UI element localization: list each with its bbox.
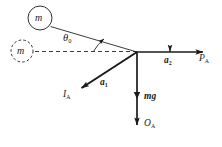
- vector-weight-mid-arrowhead: [134, 92, 140, 99]
- vector-tangential-acceleration: [82, 52, 138, 88]
- label-vertical-reaction-force: OA: [144, 119, 155, 129]
- force-I-subscript: A: [66, 94, 70, 100]
- label-horizontal-reaction-force: PA: [199, 54, 209, 64]
- label-tangential-acceleration: a1: [100, 78, 108, 88]
- label-tension-force: IA: [63, 90, 70, 100]
- accel-1-subscript: 1: [105, 82, 108, 88]
- bob-label-displaced: m: [35, 13, 42, 23]
- force-P-subscript: A: [205, 58, 209, 64]
- angle-label: θ0: [63, 33, 71, 44]
- label-horizontal-acceleration: a2: [164, 56, 172, 66]
- angle-subscript: 0: [68, 37, 71, 44]
- label-weight-force: mg: [144, 92, 156, 102]
- physics-diagram-canvas: [0, 0, 222, 147]
- bob-label-equilibrium: m: [17, 46, 24, 56]
- force-O-symbol: O: [144, 118, 151, 128]
- accel-2-subscript: 2: [169, 60, 172, 66]
- force-O-subscript: A: [151, 123, 155, 129]
- force-P-symbol: P: [199, 53, 205, 63]
